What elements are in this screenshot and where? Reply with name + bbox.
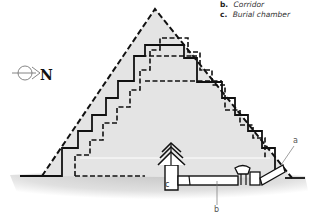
legend-label: Burial chamber	[233, 10, 290, 19]
callout-c-label: c	[165, 180, 169, 189]
legend-label: Corridor	[234, 0, 265, 9]
pyramid-outer-fill	[42, 9, 292, 178]
legend: b. Corridor c. Burial chamber	[220, 0, 290, 20]
callout-a-leader	[281, 146, 294, 165]
legend-item-corridor: b. Corridor	[220, 0, 290, 10]
legend-key: c.	[220, 10, 227, 19]
north-arrow-icon	[12, 66, 40, 80]
pyramid-cross-section-diagram	[0, 0, 310, 221]
callout-a-label: a	[293, 136, 298, 145]
legend-item-burial-chamber: c. Burial chamber	[220, 10, 290, 20]
north-label: N	[40, 67, 53, 83]
callout-b-label: b	[214, 205, 219, 214]
legend-key: b.	[220, 0, 228, 9]
